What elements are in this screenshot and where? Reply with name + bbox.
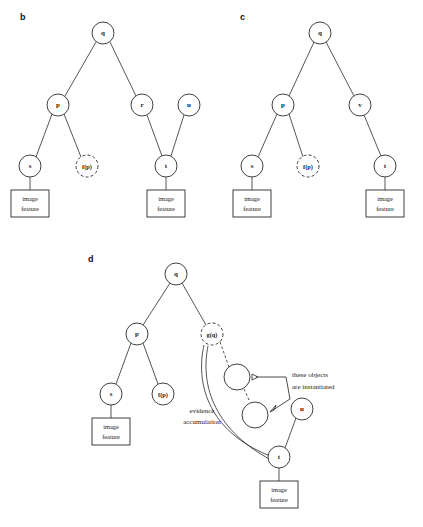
leaf-box-d-s-line1: image xyxy=(103,423,119,430)
node-u[interactable]: u xyxy=(178,94,200,116)
node-u-label: u xyxy=(187,101,191,109)
node-f-p[interactable]: f(p) xyxy=(76,155,98,177)
leaf-box-c-t-line2: feature xyxy=(376,205,394,212)
annotation-these-objects-instantiated: these objects are instantiated xyxy=(292,371,335,391)
leaf-box-t: image feature xyxy=(147,190,185,217)
node-q[interactable]: q xyxy=(92,22,114,44)
node-p[interactable]: p xyxy=(47,94,69,116)
panel-b: b q p r u s f(p xyxy=(11,12,200,217)
leaf-box-d-s: image feature xyxy=(92,418,130,445)
node-c-v[interactable]: v xyxy=(349,94,371,116)
node-d-q[interactable]: q xyxy=(165,263,187,285)
node-d-object-2[interactable] xyxy=(242,402,268,428)
node-q-label: q xyxy=(101,29,105,37)
node-c-f-p-label: f(p) xyxy=(303,163,313,171)
leaf-box-d-s-line2: feature xyxy=(102,433,120,440)
leaf-box-t-line2: feature xyxy=(157,205,175,212)
node-c-f-p[interactable]: f(p) xyxy=(297,155,319,177)
node-d-f-p[interactable]: f(p) xyxy=(152,383,174,405)
leaf-box-s-line1: image xyxy=(22,195,38,202)
annotation-evidence-accumulation-line2: accumulation xyxy=(183,418,221,426)
edge-r-t xyxy=(147,115,162,156)
panel-c: c q p v s f(p) t xyxy=(233,12,404,217)
node-d-u-label: u xyxy=(300,405,304,413)
leaf-box-c-t-line1: image xyxy=(377,195,393,202)
edge-u-t xyxy=(171,115,184,156)
edge-d-q-p xyxy=(143,283,170,325)
leaf-box-s-line2: feature xyxy=(21,205,39,212)
node-d-t[interactable]: t xyxy=(268,446,290,468)
pointer-to-obj1-arrowhead xyxy=(252,374,258,380)
node-c-p[interactable]: p xyxy=(272,94,294,116)
leaf-box-c-s-line2: feature xyxy=(243,205,261,212)
edge-d-p-fp xyxy=(143,343,158,384)
edge-d-u-t xyxy=(285,418,296,448)
edge-d-q-gq xyxy=(182,283,206,325)
figure-canvas: b q p r u s f(p xyxy=(0,0,423,527)
annotation-these-objects-line1: these objects xyxy=(292,371,328,379)
node-c-p-label: p xyxy=(281,101,285,109)
evidence-band-outer xyxy=(202,345,270,456)
node-d-p[interactable]: p xyxy=(126,323,148,345)
evidence-band-inner xyxy=(206,346,271,460)
edge-c-p-s xyxy=(258,114,277,157)
annotation-evidence-accumulation-line1: evidence xyxy=(190,407,215,415)
node-d-object-1-circle xyxy=(224,364,250,390)
leaf-box-c-s-line1: image xyxy=(244,195,260,202)
node-d-g-q-label: g(q) xyxy=(207,331,218,339)
node-d-object-1[interactable] xyxy=(224,364,250,390)
leaf-box-d-t: image feature xyxy=(260,481,298,508)
node-c-q-label: q xyxy=(318,29,322,37)
leaf-box-d-t-line2: feature xyxy=(270,496,288,503)
node-s[interactable]: s xyxy=(19,155,41,177)
leaf-box-s: image feature xyxy=(11,190,49,217)
node-c-v-label: v xyxy=(358,101,362,109)
annotation-evidence-accumulation: evidence accumulation xyxy=(183,407,221,426)
edge-p-fp xyxy=(64,114,81,157)
panel-label-d: d xyxy=(88,254,94,264)
leaf-box-c-s: image feature xyxy=(233,190,271,217)
dashed-link-gq-obj1 xyxy=(220,342,229,367)
node-s-label: s xyxy=(29,162,32,170)
edge-c-v-t xyxy=(364,115,381,156)
node-f-p-label: f(p) xyxy=(82,163,92,171)
node-d-g-q[interactable]: g(q) xyxy=(201,323,223,345)
node-d-object-2-circle xyxy=(242,402,268,428)
node-c-s-label: s xyxy=(251,162,254,170)
node-c-q[interactable]: q xyxy=(309,22,331,44)
edge-c-q-p xyxy=(289,42,314,96)
dashed-link-obj1-obj2 xyxy=(244,389,250,402)
edge-q-p xyxy=(65,42,96,96)
node-d-p-label: p xyxy=(135,330,139,338)
edge-c-p-fp xyxy=(289,114,303,157)
edge-q-r xyxy=(110,42,136,96)
node-t[interactable]: t xyxy=(155,155,177,177)
leaf-box-c-t: image feature xyxy=(366,190,404,217)
edge-c-q-v xyxy=(326,42,354,96)
node-p-label: p xyxy=(56,101,60,109)
node-d-u[interactable]: u xyxy=(291,398,313,420)
node-r[interactable]: r xyxy=(131,94,153,116)
edge-p-s xyxy=(36,114,52,157)
panel-d: d q p g(q) xyxy=(88,254,335,508)
edge-d-p-s xyxy=(116,343,131,384)
annotation-these-objects-line2: are instantiated xyxy=(292,383,335,391)
node-d-f-p-label: f(p) xyxy=(158,391,168,399)
node-d-q-label: q xyxy=(174,270,178,278)
node-c-t[interactable]: t xyxy=(374,155,396,177)
node-r-label: r xyxy=(140,101,143,109)
leaf-box-d-t-line1: image xyxy=(271,486,287,493)
panel-label-c: c xyxy=(240,12,245,22)
node-c-s[interactable]: s xyxy=(241,155,263,177)
node-d-s[interactable]: s xyxy=(100,383,122,405)
panel-label-b: b xyxy=(20,12,26,22)
leaf-box-t-line1: image xyxy=(158,195,174,202)
node-d-s-label: s xyxy=(110,390,113,398)
